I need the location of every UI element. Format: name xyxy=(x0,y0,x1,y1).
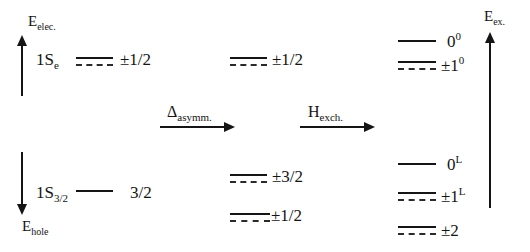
e-hole-arrowhead-icon xyxy=(17,204,27,215)
state-label-1Se-sub: e xyxy=(54,59,59,71)
term-label-col3-zero-lower-text: 0 xyxy=(447,155,456,174)
operator-label-delta-asymm-sub: asymm. xyxy=(177,111,212,123)
level-line-col3-pm1-upper-solid xyxy=(398,61,436,63)
term-label-col3-pm2: ±2 xyxy=(441,220,459,239)
state-label-1S32-sub: 3/2 xyxy=(54,192,68,204)
h-exch-arrowhead-icon xyxy=(364,122,375,132)
energy-level-diagram: Eelec. Ehole 1Se ±1/2 1S3/2 3/2 Δasymm. … xyxy=(0,0,530,252)
level-line-col3-pm1-upper-dashed xyxy=(398,68,436,70)
term-label-1Se-text: ±1/2 xyxy=(120,50,151,69)
level-line-col2-electron-dashed xyxy=(230,64,267,66)
level-line-col3-pm1-lower-solid xyxy=(398,192,436,194)
term-label-col3-pm2-text: ±2 xyxy=(441,221,459,240)
term-label-col3-pm1-lower: ±1L xyxy=(441,186,466,205)
level-line-col2-hole12-solid xyxy=(230,213,270,215)
state-label-1Se-main: 1S xyxy=(36,50,54,69)
e-hole-arrow-shaft xyxy=(21,152,23,205)
level-line-col2-hole12-dashed xyxy=(230,220,270,222)
e-ex-axis-label: Eex. xyxy=(484,9,505,27)
term-label-col3-pm1-lower-sup: L xyxy=(459,185,466,197)
term-label-col3-zero-upper-sup: 0 xyxy=(456,30,462,42)
e-hole-axis-label-main: E xyxy=(22,218,31,234)
term-label-col2-electron-text: ±1/2 xyxy=(272,50,303,69)
term-label-col3-zero-upper-text: 0 xyxy=(447,32,456,51)
term-label-col3-pm1-upper-text: ±1 xyxy=(441,56,459,75)
h-exch-arrow-shaft xyxy=(300,126,365,128)
term-label-col2-hole12: ±1/2 xyxy=(271,207,302,224)
e-hole-axis-label-sub: hole xyxy=(31,226,48,237)
term-label-col2-hole32: ±3/2 xyxy=(272,168,303,185)
term-label-col3-zero-lower: 0L xyxy=(447,154,462,173)
level-line-1S32-solid xyxy=(76,190,113,192)
level-line-col2-hole32-dashed xyxy=(230,181,267,183)
term-label-col2-hole32-text: ±3/2 xyxy=(272,167,303,186)
delta-asymm-arrow-shaft xyxy=(160,126,225,128)
e-elec-arrow-shaft xyxy=(21,45,23,96)
operator-label-delta-asymm-main: Δ xyxy=(167,103,177,120)
e-elec-axis-label-sub: elec. xyxy=(37,21,56,32)
term-label-col3-pm1-upper: ±10 xyxy=(441,55,464,74)
term-label-col2-hole12-text: ±1/2 xyxy=(271,206,302,225)
state-label-1S32-main: 1S xyxy=(36,183,54,202)
term-label-col3-pm1-upper-sup: 0 xyxy=(459,54,465,66)
level-line-col3-pm2-solid xyxy=(398,226,436,228)
delta-asymm-arrowhead-icon xyxy=(224,122,235,132)
term-label-1S32-text: 3/2 xyxy=(130,183,152,202)
e-ex-axis-label-sub: ex. xyxy=(493,16,505,27)
state-label-1S32: 1S3/2 xyxy=(36,184,68,204)
state-label-1Se: 1Se xyxy=(36,51,59,71)
term-label-col3-zero-upper: 00 xyxy=(447,31,461,50)
level-line-col3-zero-lower-solid xyxy=(398,163,436,165)
e-hole-axis-label: Ehole xyxy=(22,219,48,237)
term-label-1S32: 3/2 xyxy=(130,184,152,201)
term-label-col2-electron: ±1/2 xyxy=(272,51,303,68)
level-line-col3-pm1-lower-dashed xyxy=(398,199,436,201)
level-line-1Se-solid xyxy=(76,57,113,59)
e-elec-axis-label-main: E xyxy=(28,13,37,29)
level-line-col2-electron-solid xyxy=(230,57,267,59)
e-ex-arrow-shaft xyxy=(489,42,491,208)
operator-label-h-exch-sub: exch. xyxy=(320,111,344,123)
level-line-col2-hole32-solid xyxy=(230,174,267,176)
operator-label-h-exch-main: H xyxy=(308,103,320,120)
level-line-col3-pm2-dashed xyxy=(398,233,436,235)
operator-label-h-exch: Hexch. xyxy=(308,104,343,123)
term-label-col3-zero-lower-sup: L xyxy=(456,153,463,165)
level-line-1Se-dashed xyxy=(76,64,113,66)
operator-label-delta-asymm: Δasymm. xyxy=(167,104,212,123)
e-elec-axis-label: Eelec. xyxy=(28,14,56,32)
term-label-1Se: ±1/2 xyxy=(120,51,151,68)
term-label-col3-pm1-lower-text: ±1 xyxy=(441,187,459,206)
e-ex-axis-label-main: E xyxy=(484,8,493,24)
level-line-col3-zero-upper-solid xyxy=(398,40,436,42)
